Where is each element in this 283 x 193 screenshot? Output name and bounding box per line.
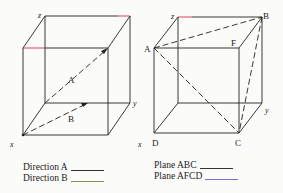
legend-directions: Direction A Direction B [23,162,104,184]
direction-a-line-swatch [71,170,104,171]
legend-plane-afcd: Plane AFCD [154,171,238,182]
legend-planes: Plane ABC Plane AFCD [154,160,238,182]
vector-a-label: A [68,75,75,85]
right-cube [154,17,262,133]
left-cube [22,16,130,136]
point-b-label: B [263,11,269,21]
legend-direction-a: Direction A [23,162,104,173]
left-z-axis-label: z [37,11,42,20]
plane-afcd-line-swatch [205,179,238,180]
right-x-axis-label: x [137,140,142,149]
point-f-label: F [231,38,236,48]
plane-abc-line-swatch [200,168,233,169]
right-z-axis-label: z [170,12,175,21]
right-y-axis-label: y [264,106,269,115]
legend-plane-abc: Plane ABC [154,160,238,171]
legend-label: Direction B [23,173,68,184]
direction-b-line-swatch [71,181,104,182]
left-y-axis-label: y [132,99,137,108]
legend-label: Direction A [23,162,68,173]
point-d-label: D [152,138,159,148]
legend-label: Plane ABC [154,160,197,171]
point-a-label: A [144,44,151,54]
vector-b-label: B [68,114,74,124]
point-c-label: C [235,138,241,148]
left-x-axis-label: x [9,140,14,149]
legend-label: Plane AFCD [154,171,202,182]
legend-direction-b: Direction B [23,173,104,184]
